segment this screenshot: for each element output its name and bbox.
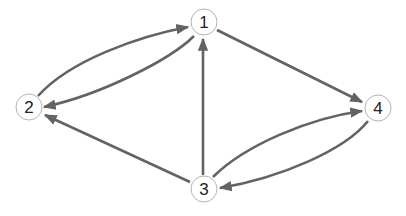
node-3: 3 [191, 176, 217, 202]
node-2: 2 [16, 94, 42, 120]
graph-canvas: 1 2 3 4 [0, 0, 406, 216]
node-label: 1 [199, 13, 208, 32]
node-label: 2 [24, 98, 33, 117]
edge-1-to-4 [217, 30, 362, 102]
node-4: 4 [365, 95, 391, 121]
edge-3-to-2 [45, 115, 190, 182]
node-label: 3 [199, 180, 208, 199]
node-1: 1 [191, 9, 217, 35]
node-label: 4 [373, 99, 382, 118]
